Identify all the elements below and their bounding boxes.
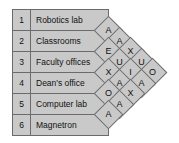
table-row: 2 Classrooms [13,31,109,52]
activity-number: 5 [13,94,31,115]
activity-number: 6 [13,115,31,136]
table-row: 3 Faculty offices [13,52,109,73]
relationship-rating: A [99,105,118,124]
relationship-diamond-lattice: AAEXUUXIOAAOXAA [97,9,179,133]
table-row: 1 Robotics lab [13,10,109,31]
rel-chart-figure: 1 Robotics lab 2 Classrooms 3 Faculty of… [0,0,179,143]
activity-number: 2 [13,31,31,52]
table-row: 6 Magnetron [13,115,109,136]
activity-number: 3 [13,52,31,73]
activity-number: 1 [13,10,31,31]
table-row: 5 Computer lab [13,94,109,115]
activity-number: 4 [13,73,31,94]
table-row: 4 Dean's office [13,73,109,94]
